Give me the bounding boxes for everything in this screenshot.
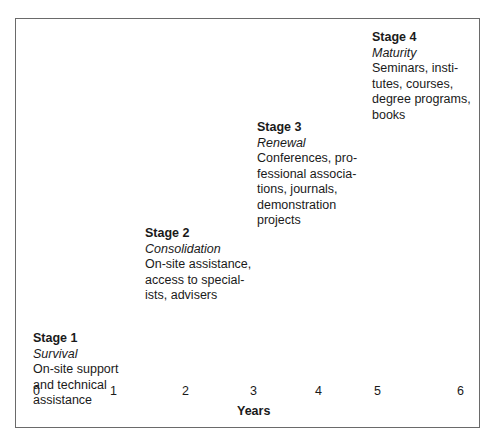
stage-2-description: On-site assistance, access to special- i…	[145, 257, 251, 304]
stage-4-description: Seminars, insti- tutes, courses, degree …	[372, 61, 471, 123]
stage-1-title: Stage 1	[33, 331, 118, 347]
x-tick-0: 0	[33, 384, 40, 398]
x-tick-6: 6	[457, 384, 464, 398]
x-tick-4: 4	[315, 384, 322, 398]
x-tick-1: 1	[110, 384, 117, 398]
stage-1-name: Survival	[33, 347, 118, 363]
stage-2-name: Consolidation	[145, 242, 251, 258]
stage-3: Stage 3 Renewal Conferences, pro- fessio…	[257, 120, 357, 229]
stage-2-title: Stage 2	[145, 226, 251, 242]
stage-3-description: Conferences, pro- fessional associa- tio…	[257, 151, 357, 229]
x-tick-3: 3	[250, 384, 257, 398]
stage-4: Stage 4 Maturity Seminars, insti- tutes,…	[372, 30, 471, 123]
x-axis-label: Years	[237, 404, 270, 418]
stage-2: Stage 2 Consolidation On-site assistance…	[145, 226, 251, 304]
x-tick-2: 2	[182, 384, 189, 398]
stage-1-description: On-site support and technical assistance	[33, 362, 118, 409]
stage-4-name: Maturity	[372, 46, 471, 62]
stage-4-title: Stage 4	[372, 30, 471, 46]
stage-3-name: Renewal	[257, 136, 357, 152]
stage-1: Stage 1 Survival On-site support and tec…	[33, 331, 118, 409]
stage-3-title: Stage 3	[257, 120, 357, 136]
x-tick-5: 5	[374, 384, 381, 398]
